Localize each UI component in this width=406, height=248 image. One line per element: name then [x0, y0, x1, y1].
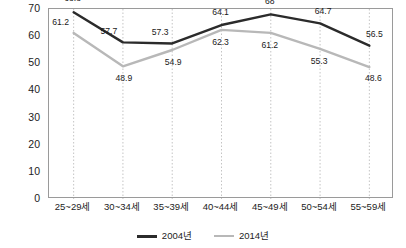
value-label-2014년-50~54세: 55.3	[311, 57, 328, 66]
chart-container: 010203040506070 68.857.757.364.16864.756…	[0, 0, 406, 248]
x-axis-tick-30~34세: 30~34세	[104, 202, 140, 212]
x-axis-tick-35~39세: 35~39세	[153, 202, 189, 212]
y-axis-tick-10: 10	[0, 166, 40, 177]
x-axis-tick-50~54세: 50~54세	[301, 202, 337, 212]
x-axis-tick-55~59세: 55~59세	[351, 202, 387, 212]
x-axis-tick-40~44세: 40~44세	[203, 202, 239, 212]
value-label-2004년-55~59세: 56.5	[366, 29, 383, 38]
value-label-2014년-55~59세: 48.6	[365, 74, 382, 83]
value-label-2004년-40~44세: 64.1	[212, 8, 229, 17]
y-axis-tick-50: 50	[0, 57, 40, 68]
x-axis-tick-45~49세: 45~49세	[252, 202, 288, 212]
value-label-2014년-35~39세: 54.9	[165, 58, 182, 67]
value-label-2014년-25~29세: 61.2	[52, 18, 69, 27]
value-label-2004년-35~39세: 57.3	[152, 28, 169, 37]
y-axis-tick-30: 30	[0, 111, 40, 122]
y-axis-tick-40: 40	[0, 84, 40, 95]
y-axis-tick-labels: 010203040506070	[0, 0, 40, 248]
value-label-2014년-30~34세: 48.9	[116, 74, 133, 83]
legend-swatch-2004년	[137, 235, 157, 238]
value-label-2004년-30~34세: 57.7	[101, 27, 118, 36]
x-axis-tick-25~29세: 25~29세	[55, 202, 91, 212]
value-label-2004년-50~54세: 64.7	[315, 7, 332, 16]
value-label-2014년-45~49세: 61.2	[261, 41, 278, 50]
y-axis-tick-0: 0	[0, 193, 40, 204]
value-label-2014년-40~44세: 62.3	[212, 38, 229, 47]
y-axis-tick-60: 60	[0, 30, 40, 41]
chart-legend: 2004년2014년	[0, 226, 406, 246]
value-label-2004년-25~29세: 68.8	[64, 0, 81, 3]
value-label-2004년-45~49세: 68	[265, 0, 275, 6]
y-axis-tick-20: 20	[0, 138, 40, 149]
y-axis-tick-70: 70	[0, 3, 40, 14]
legend-label-2004년: 2004년	[162, 231, 192, 241]
legend-swatch-2014년	[214, 235, 234, 237]
legend-label-2014년: 2014년	[239, 231, 269, 241]
legend-item-2014년[interactable]: 2014년	[214, 231, 269, 241]
legend-item-2004년[interactable]: 2004년	[137, 231, 192, 241]
x-axis-tick-labels: 25~29세30~34세35~39세40~44세45~49세50~54세55~5…	[48, 200, 393, 220]
